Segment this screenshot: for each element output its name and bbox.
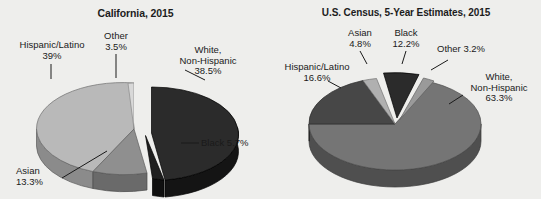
pie-label-hispanic-census: Hispanic/Latino 16.6% [273, 62, 361, 83]
pie-label-asian-ca-value: 13.3% [16, 177, 43, 188]
chart-panel-california: California, 2015 [0, 0, 271, 199]
pie-label-hispanic-census-name: Hispanic/Latino [273, 62, 361, 73]
pie-label-hispanic-ca-value: 39% [2, 51, 102, 62]
leader-line-asian-census [360, 51, 367, 64]
pie-label-white-ca: White, Non-Hispanic 38.5% [163, 45, 253, 77]
pie-label-asian-census: Asian 4.8% [340, 28, 380, 49]
pie-label-asian-census-name: Asian [340, 28, 380, 39]
pie-label-black-census: Black 12.2% [385, 28, 427, 49]
pie-label-hispanic-ca: Hispanic/Latino 39% [2, 40, 102, 61]
pie-label-asian-census-value: 4.8% [340, 39, 380, 50]
pie-label-white-ca-value: 38.5% [163, 66, 253, 77]
pie-label-black-census-name: Black [385, 28, 427, 39]
pie-label-other-ca: Other 3.5% [91, 31, 141, 52]
leader-line-other-census [431, 60, 448, 70]
leader-line-black-census [402, 51, 406, 64]
pie-label-white-ca-line1: White, [163, 45, 253, 56]
pie-label-other-census-text: Other 3.2% [437, 44, 485, 55]
pie-slice-side-black-ca [153, 179, 165, 198]
pie-gap-ca [134, 83, 141, 129]
chart-panel-census: U.S. Census, 5-Year Estimates, 2015 [271, 0, 541, 199]
two-pie-chart-figure: California, 2015 [0, 0, 541, 199]
pie-label-other-ca-value: 3.5% [91, 42, 141, 53]
pie-label-black-ca: Black 5.7% [201, 138, 249, 149]
pie-label-white-census-value: 63.3% [458, 93, 540, 104]
pie-label-asian-ca-name: Asian [16, 166, 43, 177]
pie-label-white-census-line1: White, [458, 72, 540, 83]
pie-label-white-census: White, Non-Hispanic 63.3% [458, 72, 540, 104]
pie-label-other-ca-name: Other [91, 31, 141, 42]
pie-label-hispanic-ca-name: Hispanic/Latino [2, 40, 102, 51]
pie-label-other-census: Other 3.2% [437, 44, 485, 55]
pie-label-asian-ca: Asian 13.3% [16, 166, 43, 187]
pie-label-black-ca-text: Black 5.7% [201, 138, 249, 149]
pie-label-hispanic-census-value: 16.6% [273, 73, 361, 84]
pie-label-black-census-value: 12.2% [385, 39, 427, 50]
